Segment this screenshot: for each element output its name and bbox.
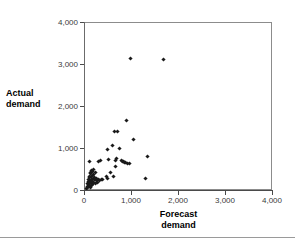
y-axis-title: Actual demand (6, 88, 68, 110)
data-point (105, 148, 109, 152)
data-point (88, 159, 92, 163)
data-point (128, 57, 132, 61)
x-axis-title: Forecast demand (84, 209, 273, 231)
x-tick-1000 (131, 191, 132, 195)
x-tick-4000 (272, 191, 273, 195)
data-point (114, 164, 118, 168)
data-point (99, 158, 103, 162)
data-point (118, 146, 122, 150)
data-point (143, 177, 147, 181)
y-tick-label-4000: 4,000 (58, 18, 78, 27)
data-point (132, 137, 136, 141)
x-tick-label-0: 0 (82, 196, 86, 205)
data-point (162, 58, 166, 62)
x-tick-label-1000: 1,000 (121, 196, 141, 205)
x-tick-label-3000: 3,000 (215, 196, 235, 205)
y-axis-title-line-2: demand (6, 99, 68, 110)
x-tick-label-2000: 2,000 (168, 196, 188, 205)
data-point (145, 155, 149, 159)
x-axis-title-line-2: demand (84, 220, 273, 231)
x-tick-2000 (178, 191, 179, 195)
data-point (111, 174, 115, 178)
data-points-layer (84, 22, 272, 190)
x-tick-0 (84, 191, 85, 195)
data-point (116, 129, 120, 133)
data-point (105, 176, 109, 180)
x-axis-title-line-1: Forecast (84, 209, 273, 220)
scatter-chart-figure: 01,0002,0003,0004,000 01,0002,0003,0004,… (0, 0, 295, 244)
x-tick-label-4000: 4,000 (262, 196, 282, 205)
data-point (110, 143, 114, 147)
data-point (94, 170, 98, 174)
data-point (108, 170, 112, 174)
data-point (124, 118, 128, 122)
y-tick-label-1000: 1,000 (58, 144, 78, 153)
y-axis-title-line-1: Actual (6, 88, 68, 99)
y-tick-label-3000: 3,000 (58, 60, 78, 69)
x-tick-3000 (225, 191, 226, 195)
y-tick-label-0: 0 (74, 186, 78, 195)
data-point (106, 158, 110, 162)
footer-divider (0, 237, 295, 238)
